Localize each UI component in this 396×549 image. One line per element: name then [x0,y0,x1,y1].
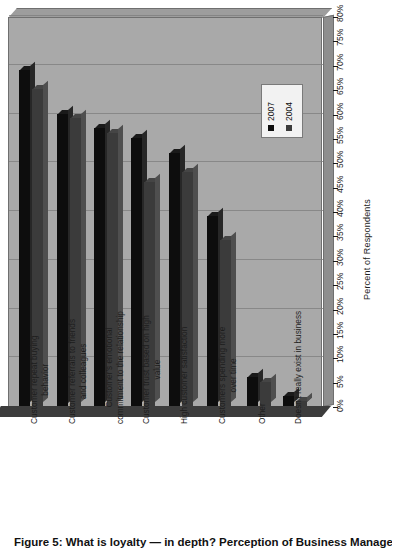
gridline [9,15,323,16]
category-label-line: value [152,315,163,424]
legend-label-2007: 2007 [266,102,276,121]
axis-tick-label: 75% [335,29,345,47]
legend: 2007 2004 [261,84,303,138]
axis-tick-label: 55% [335,126,345,144]
category-label: Customers spending moreover time [217,327,238,424]
value-axis: 0%5%10%15%20%25%30%35%40%45%50%55%60%65%… [333,10,361,420]
axis-tick-label: 45% [335,175,345,193]
value-axis-title: Percent of Respondents [362,199,372,300]
category-label: Doesn't really exist in business [293,311,304,424]
category-label: Other [257,403,268,424]
category-label: Customer's emotionalcommitment to the re… [104,311,125,424]
plot-back-wall: 2007 2004 [8,17,322,407]
category-label: High customer satisfaction [179,327,190,424]
category-label-line: Customer repeat buying [29,335,40,424]
category-label-line: over time [228,327,239,424]
legend-item-2007: 2007 [265,89,280,133]
axis-tick-label: 60% [335,102,345,120]
axis-tick-label: 35% [335,224,345,242]
axis-tick-label: 5% [335,375,345,388]
legend-swatch-2007 [268,125,274,131]
axis-tick-label: 65% [335,78,345,96]
legend-swatch-2004 [286,125,292,131]
legend-item-2004: 2004 [283,89,298,133]
figure-caption: Figure 5: What is loyalty — in depth? Pe… [14,536,392,549]
category-label-line: Other [257,403,268,424]
axis-tick-label: 30% [335,248,345,266]
category-label: Customer trust based on highvalue [141,315,162,424]
category-label-line: commitment to the relationship [115,311,126,424]
category-label-line: and colleagues [78,319,89,424]
axis-tick-label: 25% [335,273,345,291]
axis-tick-label: 0% [335,399,345,412]
category-label-line: Customer trust based on high [141,315,152,424]
legend-label-2004: 2004 [284,102,294,121]
category-label: Customer repeat buyingbehavior [29,335,50,424]
category-label: Customer referrals to friendsand colleag… [67,319,88,424]
axis-tick-label: 50% [335,151,345,169]
bar-2007 [247,377,258,406]
axis-tick-label: 20% [335,297,345,315]
axis-tick-label: 70% [335,53,345,71]
category-label-line: behavior [40,335,51,424]
axis-tick-label: 10% [335,346,345,364]
category-label-line: High customer satisfaction [179,327,190,424]
category-label-line: Customer referrals to friends [67,319,78,424]
axis-tick-label: 80% [335,4,345,22]
axis-tick-label: 15% [335,321,345,339]
axis-tick-label: 40% [335,199,345,217]
category-label-line: Doesn't really exist in business [293,311,304,424]
plot-area: 2007 2004 [8,17,332,415]
category-label-line: Customers spending more [217,327,228,424]
chart-figure: 2007 2004 0%5%10%15%20%25%30%35%40%45%50… [0,0,396,549]
category-label-line: Customer's emotional [104,311,115,424]
gridline [9,64,323,65]
